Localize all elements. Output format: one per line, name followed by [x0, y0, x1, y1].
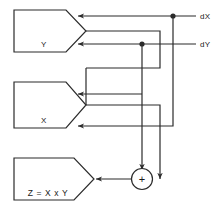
signal-label-dx: dX [200, 12, 211, 21]
block-x-label: X [41, 116, 47, 125]
adder-node[interactable]: + [132, 169, 153, 190]
block-x[interactable]: X [14, 82, 86, 128]
block-y[interactable]: Y [14, 10, 86, 52]
junction-dot-dx [170, 13, 175, 18]
block-x-shape [14, 82, 86, 128]
block-z-label: Z = X x Y [28, 188, 68, 198]
block-y-shape [14, 10, 86, 52]
wire-dx-to-x [78, 16, 173, 126]
junction-dot-dy [139, 41, 144, 46]
adder-label: + [139, 173, 145, 185]
wire-y-out-to-x [86, 31, 160, 68]
diagram-canvas: Y X Z = X x Y [0, 0, 222, 221]
wire-x-out-to-adder [86, 105, 160, 179]
block-y-label: Y [41, 40, 47, 49]
block-z[interactable]: Z = X x Y [14, 158, 94, 200]
dataflow-diagram: Y X Z = X x Y [0, 0, 222, 221]
signal-label-dy: dY [200, 40, 211, 49]
